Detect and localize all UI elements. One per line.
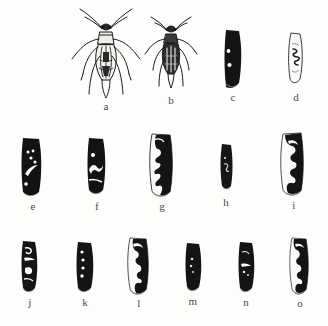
panel-e: e — [12, 134, 54, 212]
insect-drawing-b — [140, 12, 202, 94]
panel-l: l — [119, 235, 159, 309]
panel-n: n — [227, 238, 265, 308]
panel-f: f — [76, 134, 118, 212]
hemelytron-drawing-l — [119, 235, 159, 297]
insect-drawing-a — [66, 4, 146, 100]
panel-label-b: b — [140, 94, 202, 106]
hemelytron-drawing-i — [272, 129, 316, 199]
panel-d: d — [276, 27, 316, 103]
panel-label-f: f — [76, 200, 118, 212]
panel-label-g: g — [140, 200, 184, 212]
panel-label-d: d — [276, 91, 316, 103]
hemelytron-drawing-m — [174, 239, 212, 295]
hemelytron-drawing-h — [208, 140, 244, 196]
panel-label-l: l — [119, 297, 159, 309]
panel-a: a — [66, 4, 146, 112]
panel-label-n: n — [227, 296, 265, 308]
panel-label-c: c — [213, 91, 253, 103]
panel-j: j — [11, 238, 49, 308]
panel-o: o — [280, 235, 320, 309]
hemelytron-drawing-n — [227, 238, 265, 296]
figure-plate: a — [0, 0, 328, 326]
panel-label-i: i — [272, 199, 316, 211]
panel-label-m: m — [174, 295, 212, 307]
panel-k: k — [66, 238, 104, 308]
panel-i: i — [272, 129, 316, 211]
hemelytron-drawing-j — [11, 238, 49, 296]
hemelytron-drawing-k — [66, 238, 104, 296]
hemelytron-drawing-e — [12, 134, 54, 200]
panel-label-e: e — [12, 200, 54, 212]
panel-g: g — [140, 130, 184, 212]
hemelytron-drawing-g — [140, 130, 184, 200]
panel-label-a: a — [66, 100, 146, 112]
panel-h: h — [208, 140, 244, 208]
panel-b: b — [140, 12, 202, 106]
panel-c: c — [213, 27, 253, 103]
panel-label-h: h — [208, 196, 244, 208]
panel-label-j: j — [11, 296, 49, 308]
hemelytron-drawing-c — [213, 27, 253, 91]
hemelytron-drawing-f — [76, 134, 118, 200]
hemelytron-drawing-d — [276, 27, 316, 91]
panel-label-o: o — [280, 297, 320, 309]
panel-m: m — [174, 239, 212, 307]
hemelytron-drawing-o — [280, 235, 320, 297]
panel-label-k: k — [66, 296, 104, 308]
